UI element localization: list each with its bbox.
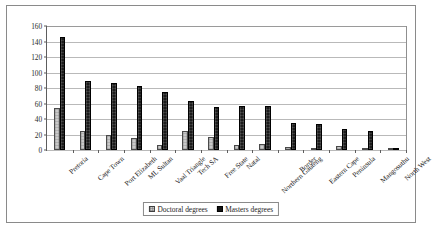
x-axis-label: Free State xyxy=(223,155,249,180)
bar-group xyxy=(98,26,124,150)
bar-group xyxy=(201,26,227,150)
x-tick-mark xyxy=(252,150,253,153)
bar-group xyxy=(124,26,150,150)
legend-swatch-doctoral-icon xyxy=(149,206,155,212)
bar-group xyxy=(278,26,304,150)
chart-frame: 020406080100120140160 PretoriaCape TownP… xyxy=(6,5,416,223)
bar-group xyxy=(47,26,73,150)
x-tick-mark xyxy=(227,150,228,153)
legend-item-masters: Masters degrees xyxy=(217,205,273,214)
x-tick-mark xyxy=(98,150,99,153)
legend-swatch-masters-icon xyxy=(217,206,223,212)
bar-masters xyxy=(265,106,271,150)
bar-masters xyxy=(316,124,322,150)
bar-group xyxy=(252,26,278,150)
x-axis-label: Cape Town xyxy=(96,155,125,183)
bar-group xyxy=(73,26,99,150)
bar-masters xyxy=(85,81,91,150)
x-tick-mark xyxy=(406,150,407,153)
y-tick-label: 20 xyxy=(35,130,42,139)
chart-legend: Doctoral degrees Masters degrees xyxy=(143,202,279,216)
y-tick-label: 120 xyxy=(31,53,42,62)
bar-masters xyxy=(188,101,194,150)
x-tick-mark xyxy=(303,150,304,153)
y-tick-label: 100 xyxy=(31,68,42,77)
y-tick-label: 60 xyxy=(35,99,42,108)
bar-group xyxy=(380,26,406,150)
x-tick-mark xyxy=(150,150,151,153)
plot-area: 020406080100120140160 xyxy=(46,26,407,151)
bar-group xyxy=(355,26,381,150)
bar-masters xyxy=(291,123,297,150)
x-tick-mark xyxy=(380,150,381,153)
bar-masters xyxy=(368,131,374,150)
x-tick-mark xyxy=(73,150,74,153)
bar-group xyxy=(175,26,201,150)
x-tick-mark xyxy=(278,150,279,153)
bar-masters xyxy=(214,107,220,150)
y-tick-label: 40 xyxy=(35,115,42,124)
bar-masters xyxy=(111,83,117,150)
bar-group xyxy=(303,26,329,150)
bar-masters xyxy=(162,92,168,150)
x-tick-mark xyxy=(124,150,125,153)
x-tick-mark xyxy=(355,150,356,153)
bar-masters xyxy=(239,106,245,150)
bar-group xyxy=(329,26,355,150)
bar-masters xyxy=(60,37,66,150)
legend-label-doctoral: Doctoral degrees xyxy=(157,205,207,214)
bar-masters xyxy=(137,86,143,150)
legend-item-doctoral: Doctoral degrees xyxy=(149,205,208,214)
bar-series-container xyxy=(47,26,406,150)
x-axis-label: Pretoria xyxy=(68,155,90,176)
bar-group xyxy=(227,26,253,150)
legend-label-masters: Masters degrees xyxy=(225,205,273,214)
bar-group xyxy=(150,26,176,150)
bar-masters xyxy=(342,129,348,150)
x-tick-mark xyxy=(201,150,202,153)
x-tick-mark xyxy=(329,150,330,153)
x-tick-mark xyxy=(175,150,176,153)
y-tick-label: 0 xyxy=(38,146,42,155)
x-axis-label: Natal xyxy=(245,155,262,171)
bar-masters xyxy=(393,148,399,150)
y-tick-label: 80 xyxy=(35,84,42,93)
y-tick-label: 140 xyxy=(31,37,42,46)
y-tick-label: 160 xyxy=(31,22,42,31)
